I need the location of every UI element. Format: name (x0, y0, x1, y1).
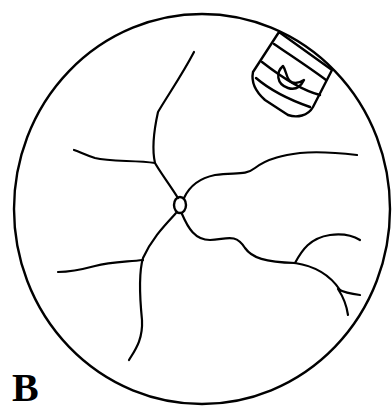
lower-right-branch-upper (295, 234, 360, 263)
inferior-right-vessel (182, 214, 340, 290)
lower-right-branch-lower (338, 289, 360, 315)
fundus-diagram (0, 0, 392, 416)
inferior-left-vessel (129, 213, 176, 360)
fundus-boundary (14, 14, 390, 404)
left-upper-branch (74, 150, 155, 163)
lower-left-branch (58, 260, 143, 272)
optic-disc (174, 197, 186, 213)
right-upper-vessel (184, 152, 357, 198)
striped-badge-icon (253, 32, 332, 116)
panel-label: B (12, 368, 39, 408)
superior-vessel (154, 52, 194, 198)
